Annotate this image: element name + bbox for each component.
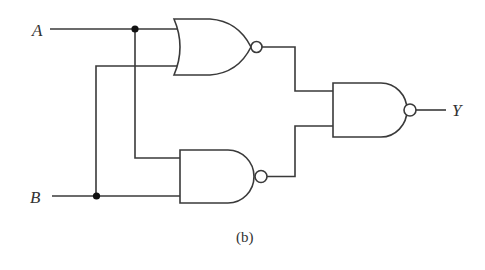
wire-nand-out bbox=[267, 126, 333, 177]
nor-gate bbox=[174, 19, 251, 75]
wire-a-to-nand bbox=[135, 29, 181, 158]
junction-dot-b-icon bbox=[93, 192, 100, 199]
wire-nor-out bbox=[262, 47, 333, 91]
logic-circuit-diagram: A B Y (b) bbox=[0, 0, 485, 270]
input-label-b: B bbox=[30, 188, 41, 207]
output-label-y: Y bbox=[452, 101, 463, 120]
nand-lower-bubble-icon bbox=[255, 171, 267, 183]
figure-caption: (b) bbox=[236, 229, 254, 246]
wire-b-to-nor bbox=[96, 66, 179, 196]
nand-output-bubble-icon bbox=[404, 104, 416, 116]
nand-gate-output bbox=[333, 83, 407, 137]
nor-bubble-icon bbox=[251, 42, 262, 53]
junction-dot-a-icon bbox=[131, 25, 138, 32]
nand-gate-lower bbox=[180, 150, 254, 203]
input-label-a: A bbox=[31, 21, 43, 40]
